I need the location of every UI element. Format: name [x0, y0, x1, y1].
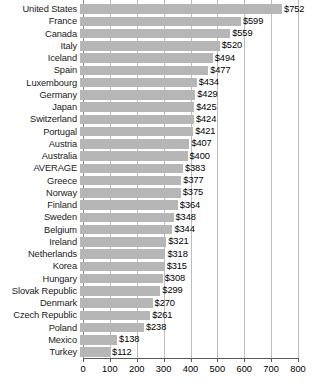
x-tick-label: 400	[183, 364, 199, 375]
bar[interactable]	[80, 151, 188, 160]
x-tick-mark-600	[244, 358, 245, 362]
bar[interactable]	[80, 78, 197, 87]
x-tick-label: 600	[236, 364, 252, 375]
bar[interactable]	[80, 286, 160, 295]
x-tick-label: 300	[156, 364, 172, 375]
x-tick-mark-0	[83, 358, 84, 362]
bar-value-label: $752	[284, 4, 304, 15]
chart-row: Greece$377	[0, 175, 316, 187]
bar-chart: United States$752France$599Canada$559Ita…	[0, 0, 316, 387]
category-label: Czech Republic	[0, 310, 80, 320]
bar[interactable]	[80, 213, 174, 222]
chart-row: Iceland$494	[0, 52, 316, 64]
chart-row: Sweden$348	[0, 211, 316, 223]
category-label: Italy	[0, 41, 80, 51]
category-label: Iceland	[0, 53, 80, 63]
x-tick-mark-700	[271, 358, 272, 362]
category-label: Japan	[0, 102, 80, 112]
x-tick-mark-400	[191, 358, 192, 362]
bar-track: $321	[80, 236, 316, 248]
bar[interactable]	[80, 298, 153, 307]
chart-row: Australia$400	[0, 150, 316, 162]
chart-row: Norway$375	[0, 187, 316, 199]
chart-row: Spain$477	[0, 64, 316, 76]
bar[interactable]	[80, 102, 194, 111]
bar-track: $400	[80, 150, 316, 162]
bar-value-label: $344	[174, 224, 194, 235]
x-tick-mark-500	[217, 358, 218, 362]
chart-row: Luxembourg$434	[0, 77, 316, 89]
bar-track: $318	[80, 248, 316, 260]
bar[interactable]	[80, 200, 178, 209]
bar-value-label: $429	[197, 89, 217, 100]
bar-value-label: $400	[190, 151, 210, 162]
bar-value-label: $364	[180, 200, 200, 211]
bar[interactable]	[80, 347, 110, 356]
bar[interactable]	[80, 29, 230, 38]
bar-value-label: $599	[243, 16, 263, 27]
bar-track: $375	[80, 187, 316, 199]
bar[interactable]	[80, 335, 117, 344]
chart-row: Netherlands$318	[0, 248, 316, 260]
bar[interactable]	[80, 41, 220, 50]
bar[interactable]	[80, 17, 241, 26]
category-label: Denmark	[0, 298, 80, 308]
chart-row: Belgium$344	[0, 224, 316, 236]
bar[interactable]	[80, 262, 165, 271]
bar[interactable]	[80, 66, 208, 75]
bar[interactable]	[80, 176, 181, 185]
bar[interactable]	[80, 311, 150, 320]
bar[interactable]	[80, 139, 189, 148]
bar-value-label: $321	[168, 236, 188, 247]
bar-track: $407	[80, 138, 316, 150]
category-label: Poland	[0, 323, 80, 333]
category-label: Portugal	[0, 127, 80, 137]
bar-track: $138	[80, 334, 316, 346]
chart-row: Canada$559	[0, 28, 316, 40]
bar-value-label: $424	[196, 114, 216, 125]
bar[interactable]	[80, 323, 144, 332]
category-label: Spain	[0, 65, 80, 75]
chart-row: Finland$364	[0, 199, 316, 211]
bar[interactable]	[80, 274, 163, 283]
chart-row: United States$752	[0, 3, 316, 15]
chart-row: Mexico$138	[0, 334, 316, 346]
category-label: Netherlands	[0, 249, 80, 259]
bar-value-label: $425	[196, 102, 216, 113]
bar-track: $238	[80, 322, 316, 334]
bar[interactable]	[80, 225, 172, 234]
bar[interactable]	[80, 53, 213, 62]
category-label: Finland	[0, 200, 80, 210]
category-label: AVERAGE	[0, 163, 80, 173]
bar-track: $315	[80, 260, 316, 272]
category-label: Germany	[0, 90, 80, 100]
bar[interactable]	[80, 4, 282, 13]
bar-value-label: $383	[185, 163, 205, 174]
bar-value-label: $494	[215, 53, 235, 64]
bar-track: $270	[80, 297, 316, 309]
bar[interactable]	[80, 127, 193, 136]
bar[interactable]	[80, 249, 165, 258]
bar-value-label: $407	[191, 138, 211, 149]
category-label: Austria	[0, 139, 80, 149]
x-tick-label: 800	[290, 364, 306, 375]
chart-row: AVERAGE$383	[0, 162, 316, 174]
chart-row: Germany$429	[0, 89, 316, 101]
category-label: Switzerland	[0, 114, 80, 124]
category-label: Australia	[0, 151, 80, 161]
bar[interactable]	[80, 115, 194, 124]
bar-track: $112	[80, 346, 316, 358]
bar-value-label: $434	[199, 77, 219, 88]
category-label: Korea	[0, 261, 80, 271]
bar-value-label: $138	[119, 334, 139, 345]
chart-row: Slovak Republic$299	[0, 285, 316, 297]
bar-value-label: $308	[165, 273, 185, 284]
bar[interactable]	[80, 164, 183, 173]
category-label: Hungary	[0, 274, 80, 284]
bar-track: $429	[80, 89, 316, 101]
bar-track: $752	[80, 3, 316, 15]
x-tick-label: 200	[129, 364, 145, 375]
bar[interactable]	[80, 237, 166, 246]
bar[interactable]	[80, 188, 181, 197]
bar[interactable]	[80, 90, 195, 99]
